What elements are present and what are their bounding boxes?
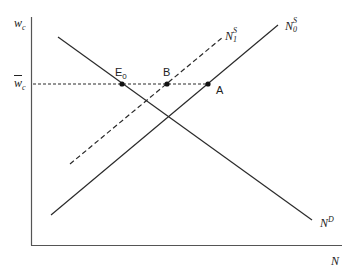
point-b bbox=[164, 81, 169, 86]
demand-curve bbox=[58, 37, 312, 220]
point-e0-label: E0 bbox=[115, 67, 127, 81]
wage-level-label: wc bbox=[14, 77, 26, 92]
labor-market-diagram bbox=[0, 0, 358, 275]
x-axis-label: N bbox=[331, 255, 339, 267]
point-e0 bbox=[119, 81, 124, 86]
point-b-label: B bbox=[163, 67, 170, 78]
point-a-label: A bbox=[216, 85, 223, 96]
demand-curve-label: ND bbox=[320, 216, 334, 229]
point-a bbox=[205, 81, 210, 86]
supply-curve-1 bbox=[70, 37, 223, 164]
y-axis-label: wc bbox=[14, 17, 26, 32]
supply-curve-0 bbox=[51, 25, 278, 215]
supply-curve-0-label: NS0 bbox=[285, 20, 300, 32]
supply-curve-1-label: NS1 bbox=[225, 30, 240, 42]
